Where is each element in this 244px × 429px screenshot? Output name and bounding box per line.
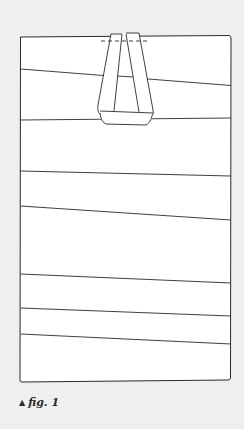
figure-diagram [0, 0, 244, 429]
triangle-up-icon: ▲ [19, 398, 25, 407]
figure-caption: ▲ fig. 1 [19, 396, 59, 409]
figure-caption-text: fig. 1 [28, 396, 59, 409]
